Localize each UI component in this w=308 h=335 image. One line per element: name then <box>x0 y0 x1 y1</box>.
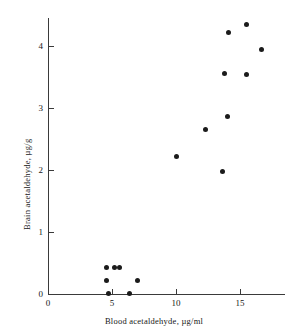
y-tick-mark <box>49 46 54 47</box>
data-point <box>135 278 140 283</box>
x-tick-label: 0 <box>46 299 51 308</box>
y-tick-mark <box>49 108 54 109</box>
data-point <box>104 278 109 283</box>
x-axis-line <box>48 294 285 295</box>
data-point <box>259 47 264 52</box>
data-point <box>174 154 179 159</box>
x-tick-label: 15 <box>236 299 245 308</box>
data-point <box>244 72 249 77</box>
y-tick-mark <box>49 232 54 233</box>
data-point <box>203 127 208 132</box>
data-point <box>222 71 227 76</box>
data-point <box>117 265 122 270</box>
y-tick-label: 3 <box>32 104 43 113</box>
y-tick-label: 0 <box>32 290 43 299</box>
data-point <box>220 169 225 174</box>
y-tick-label: 1 <box>32 228 43 237</box>
plot-area: 05101501234 <box>0 0 308 335</box>
y-axis-title: Brain acetaldehyde, µg/g <box>22 139 32 230</box>
y-tick-mark <box>49 170 54 171</box>
data-point <box>104 265 109 270</box>
x-tick-mark <box>240 289 241 294</box>
y-axis-line <box>48 18 49 294</box>
data-point <box>244 22 249 27</box>
y-tick-label: 4 <box>32 42 43 51</box>
x-axis-title: Blood acetaldehyde, µg/ml <box>0 316 308 326</box>
x-tick-label: 10 <box>172 299 181 308</box>
y-tick-label: 2 <box>32 166 43 175</box>
data-point <box>225 114 230 119</box>
data-point <box>226 30 231 35</box>
data-point <box>106 291 111 296</box>
x-tick-mark <box>112 289 113 294</box>
scatter-plot-figure: 05101501234 Blood acetaldehyde, µg/ml Br… <box>0 0 308 335</box>
x-tick-mark <box>176 289 177 294</box>
x-tick-label: 5 <box>110 299 115 308</box>
